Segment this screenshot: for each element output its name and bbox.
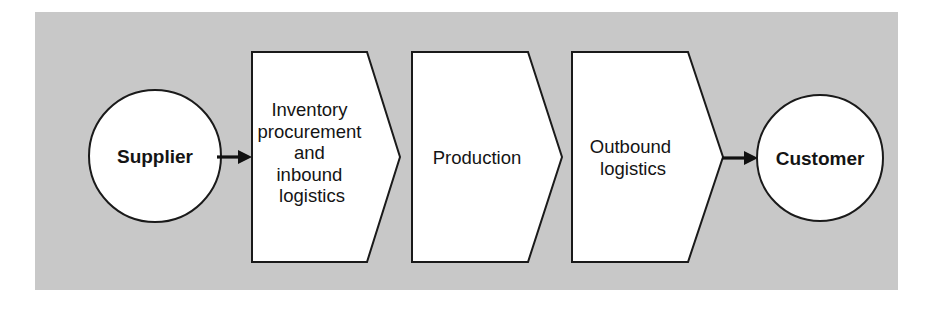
supply-chain-diagram: Supplier Inventory procurement and inbou… bbox=[0, 0, 936, 314]
inbound-label-line-1: Inventory bbox=[271, 99, 348, 120]
customer-label: Customer bbox=[776, 148, 865, 169]
outbound-label: Outbound logistics bbox=[590, 136, 676, 179]
node-supplier[interactable]: Supplier bbox=[89, 90, 221, 222]
production-label-line-1: Production bbox=[433, 147, 521, 168]
outbound-label-line-2: logistics bbox=[600, 158, 666, 179]
diagram-canvas: Supplier Inventory procurement and inbou… bbox=[0, 0, 936, 314]
supplier-label: Supplier bbox=[117, 146, 194, 167]
inbound-label-line-2: procurement bbox=[258, 121, 362, 142]
node-customer[interactable]: Customer bbox=[757, 95, 883, 221]
outbound-label-line-1: Outbound bbox=[590, 136, 671, 157]
node-inbound[interactable]: Inventory procurement and inbound logist… bbox=[252, 52, 400, 262]
inbound-label-line-4: inbound bbox=[277, 164, 343, 185]
inbound-label-line-5: logistics bbox=[279, 185, 345, 206]
inbound-label-line-3: and bbox=[294, 142, 325, 163]
production-label: Production bbox=[433, 147, 521, 168]
